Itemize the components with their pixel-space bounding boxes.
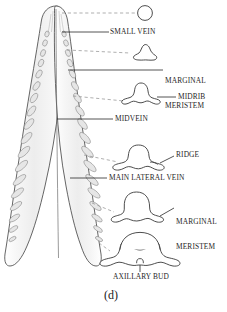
cross-section-stage-3-midrib-dome [122, 83, 160, 104]
label-main-lateral-vein: MAIN LATERAL VEIN [109, 174, 185, 182]
cross-section-stage-6-axillary-bud [100, 232, 180, 266]
axillary-bud-notch [137, 259, 144, 264]
label-midvein: MIDVEIN [115, 115, 148, 123]
figure-container: SMALL VEIN MARGINAL MERISTEM MIDRIB MIDV… [0, 0, 227, 312]
leader-marginal-meristem-lower [160, 208, 174, 216]
cross-section-stage-2-trilobed [133, 45, 156, 61]
leader-dashed-stage-2 [67, 50, 130, 53]
leader-ridge [160, 156, 174, 163]
label-small-vein: SMALL VEIN [110, 28, 155, 36]
cross-section-stage-4-ridge-dome [113, 145, 164, 170]
figure-caption: (d) [104, 288, 118, 303]
label-axillary-bud: AXILLARY BUD [113, 273, 169, 281]
label-marginal-meristem-lower-line-1: MARGINAL [176, 218, 217, 226]
label-ridge: RIDGE [176, 151, 199, 159]
label-marginal-meristem-upper-line-1: MARGINAL [165, 77, 206, 85]
label-marginal-meristem-lower-line-2: MERISTEM [176, 243, 217, 251]
label-marginal-meristem-upper-line-2: MERISTEM [165, 102, 206, 110]
leaf-primordium-drawing [5, 6, 104, 266]
label-marginal-meristem-lower: MARGINAL MERISTEM [176, 202, 217, 268]
label-midrib: MIDRIB [178, 93, 205, 101]
cross-section-stage-1-circle [138, 6, 153, 21]
cross-section-stage-5-round-dome [111, 192, 163, 222]
